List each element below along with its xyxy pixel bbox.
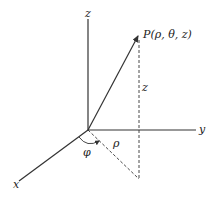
radius-label: ρ bbox=[112, 137, 120, 150]
x-axis bbox=[19, 130, 88, 181]
z-axis-label: z bbox=[84, 7, 91, 20]
height-label: z bbox=[141, 81, 148, 94]
cylindrical-coordinates-diagram: z y x P(ρ, θ, z) z ρ φ bbox=[0, 0, 216, 200]
x-axis-label: x bbox=[13, 178, 20, 191]
y-axis-label: y bbox=[198, 123, 206, 136]
point-label: P(ρ, θ, z) bbox=[142, 28, 192, 41]
angle-label: φ bbox=[83, 146, 91, 159]
position-vector-arrow bbox=[88, 36, 138, 130]
